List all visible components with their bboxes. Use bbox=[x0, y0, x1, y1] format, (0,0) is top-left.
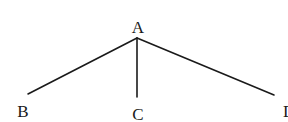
edges bbox=[28, 38, 274, 97]
edge-a-d bbox=[137, 38, 274, 95]
node-d-label: D bbox=[283, 102, 288, 121]
nodes: A B C D bbox=[17, 18, 288, 122]
node-a-label: A bbox=[132, 18, 145, 37]
tree-diagram: A B C D bbox=[0, 0, 288, 122]
edge-a-b bbox=[28, 38, 137, 94]
node-b-label: B bbox=[17, 102, 28, 121]
node-c-label: C bbox=[132, 105, 143, 122]
